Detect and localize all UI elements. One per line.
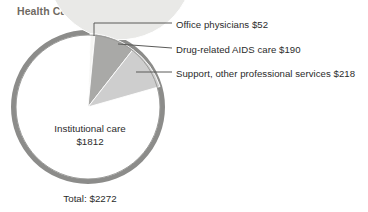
pie-chart-figure: Health Care Costs (1985) Office physicia… — [0, 0, 368, 212]
slice-center-label-group: Institutional care $1812 — [34, 122, 146, 148]
slice-value-institutional-care: $1812 — [34, 135, 146, 148]
callout-label-office-physicians: Office physicians $52 — [176, 19, 268, 30]
slice-label-institutional-care: Institutional care — [54, 123, 125, 134]
callout-label-drug-related-aids-care: Drug-related AIDS care $190 — [176, 44, 301, 55]
callout-label-support-other-professional-services: Support, other professional services $21… — [176, 68, 355, 79]
pie-chart-graphic — [0, 0, 368, 212]
total-label: Total: $2272 — [28, 193, 152, 204]
